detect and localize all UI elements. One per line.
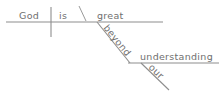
diagram-canvas: God is great beyond understanding our bbox=[0, 0, 221, 92]
word-complement: great bbox=[97, 10, 124, 21]
word-prepositional-object: understanding bbox=[140, 51, 213, 62]
word-modifier: our bbox=[147, 62, 167, 81]
complement-divider bbox=[79, 6, 86, 21]
word-verb: is bbox=[59, 10, 67, 21]
sentence-diagram: God is great beyond understanding our bbox=[0, 0, 221, 92]
word-preposition: beyond bbox=[101, 22, 133, 58]
word-subject: God bbox=[19, 10, 39, 21]
